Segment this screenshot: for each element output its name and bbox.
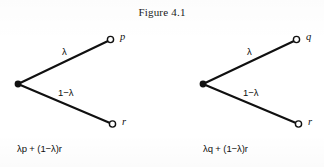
right-outcome-node-q <box>293 36 299 42</box>
left-outcome-node-p <box>107 36 113 42</box>
lottery-tree-canvas <box>0 0 324 167</box>
right-outcome-node-r <box>295 121 301 127</box>
right-outcome-label-q: q <box>306 32 311 43</box>
right-outcome-label-r: r <box>308 117 312 128</box>
right-root-node <box>200 81 207 88</box>
left-root-node <box>15 81 22 88</box>
left-outcome-label-r: r <box>122 117 126 128</box>
right-expected-value-expression: λq + (1−λ)r <box>203 143 248 154</box>
left-outcome-label-p: p <box>120 32 125 43</box>
left-outcome-node-r <box>109 121 115 127</box>
figure-container: Figure 4.1 λ p 1−λ r λp + (1−λ)r λ q 1−λ… <box>0 0 324 167</box>
left-upper-branch-probability: λ <box>62 47 67 57</box>
right-upper-branch-probability: λ <box>247 47 252 57</box>
left-expected-value-expression: λp + (1−λ)r <box>17 143 62 154</box>
left-lower-branch-probability: 1−λ <box>58 88 73 98</box>
right-lower-branch-probability: 1−λ <box>243 88 258 98</box>
